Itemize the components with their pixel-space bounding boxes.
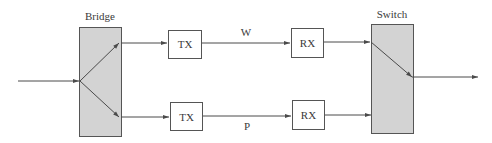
working-path: TX W RX: [121, 26, 370, 59]
tx-working-label: TX: [178, 38, 193, 50]
working-link-label: W: [241, 26, 252, 38]
switch-rect: [372, 25, 414, 134]
bridge-label: Bridge: [85, 10, 115, 22]
protection-link-label: P: [244, 120, 250, 132]
protection-path: TX P RX: [121, 101, 371, 133]
switch-block: Switch: [371, 8, 414, 134]
protection-switching-diagram: Bridge TX W RX TX P RX Switch: [0, 0, 492, 143]
bridge-block: Bridge: [80, 10, 122, 137]
tx-protection-label: TX: [179, 111, 194, 123]
switch-label: Switch: [377, 8, 408, 20]
bridge-rect: [80, 28, 122, 137]
rx-working-label: RX: [300, 37, 315, 49]
rx-protection-label: RX: [301, 109, 316, 121]
